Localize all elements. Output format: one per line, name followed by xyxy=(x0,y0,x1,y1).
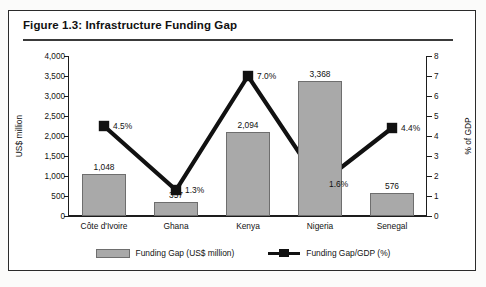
left-axis-title: US$ million xyxy=(14,115,24,157)
line-value-label: 7.0% xyxy=(257,71,276,81)
chart-legend: Funding Gap (US$ million) Funding Gap/GD… xyxy=(9,248,477,258)
right-axis-tick-label: 2 xyxy=(434,172,439,181)
chart-plot-area: US$ million % of GDP 05001,0001,5002,000… xyxy=(68,56,428,226)
legend-item-funding-gap: Funding Gap (US$ million) xyxy=(96,248,235,258)
right-axis-tick-label: 8 xyxy=(434,52,439,61)
bar-c-te-d-ivoire xyxy=(82,174,125,216)
right-axis-tick xyxy=(427,156,432,157)
legend-bar-swatch xyxy=(96,249,130,258)
bar-value-label: 357 xyxy=(169,190,183,200)
right-axis-tick-label: 0 xyxy=(434,212,439,221)
x-axis-category-label: Ghana xyxy=(163,221,188,231)
right-axis-tick xyxy=(427,136,432,137)
right-axis-tick xyxy=(427,96,432,97)
figure-title: Figure 1.3: Infrastructure Funding Gap xyxy=(23,19,237,31)
left-axis-tick-label: 500 xyxy=(51,192,65,201)
bar-value-label: 3,368 xyxy=(310,69,331,79)
legend-bar-label: Funding Gap (US$ million) xyxy=(136,248,235,258)
line-value-label: 4.4% xyxy=(401,123,420,133)
figure-page: Figure 1.3: Infrastructure Funding Gap U… xyxy=(0,0,486,287)
legend-item-funding-gap-gdp: Funding Gap/GDP (%) xyxy=(268,248,390,258)
left-axis-tick-label: 3,500 xyxy=(45,72,66,81)
right-axis-tick xyxy=(427,56,432,57)
left-axis-tick-label: 3,000 xyxy=(45,92,66,101)
x-axis-category-label: Senegal xyxy=(377,221,408,231)
right-axis-tick xyxy=(427,196,432,197)
bar-senegal xyxy=(370,193,413,216)
right-axis-tick xyxy=(427,176,432,177)
figure-frame: Figure 1.3: Infrastructure Funding Gap U… xyxy=(8,10,476,271)
line-value-label: 4.5% xyxy=(113,121,132,131)
left-axis-tick-label: 2,000 xyxy=(45,132,66,141)
right-axis-tick-label: 4 xyxy=(434,132,439,141)
left-axis-tick-label: 0 xyxy=(60,212,65,221)
right-axis-tick-label: 1 xyxy=(434,192,439,201)
right-axis-tick-label: 7 xyxy=(434,72,439,81)
right-axis-tick xyxy=(427,76,432,77)
x-axis-category-label: Côte d'Ivoire xyxy=(81,221,128,231)
bar-ghana xyxy=(154,202,197,216)
line-marker-icon xyxy=(99,121,109,131)
left-axis-tick-label: 1,500 xyxy=(45,152,66,161)
right-axis-tick xyxy=(427,216,432,217)
right-axis-tick xyxy=(427,116,432,117)
bar-nigeria xyxy=(298,81,341,216)
x-axis-category-label: Kenya xyxy=(236,221,260,231)
left-axis-tick-label: 1,000 xyxy=(45,172,66,181)
right-axis-title: % of GDP xyxy=(463,117,473,154)
line-marker-icon xyxy=(387,123,397,133)
line-value-label: 1.3% xyxy=(185,185,204,195)
right-axis-tick-label: 5 xyxy=(434,112,439,121)
right-axis-tick-label: 3 xyxy=(434,152,439,161)
legend-line-marker xyxy=(268,248,300,258)
legend-line-label: Funding Gap/GDP (%) xyxy=(306,248,390,258)
line-marker-icon xyxy=(243,71,253,81)
right-axis-tick-label: 6 xyxy=(434,92,439,101)
line-value-label: 1.6% xyxy=(329,179,348,189)
bar-value-label: 2,094 xyxy=(238,120,259,130)
bar-kenya xyxy=(226,132,269,216)
left-axis-tick-label: 4,000 xyxy=(45,52,66,61)
bar-value-label: 576 xyxy=(385,181,399,191)
left-axis-tick-label: 2,500 xyxy=(45,112,66,121)
legend-square-marker-icon xyxy=(279,249,289,257)
x-axis-category-label: Nigeria xyxy=(307,221,334,231)
bar-value-label: 1,048 xyxy=(94,162,115,172)
title-divider xyxy=(23,39,453,41)
